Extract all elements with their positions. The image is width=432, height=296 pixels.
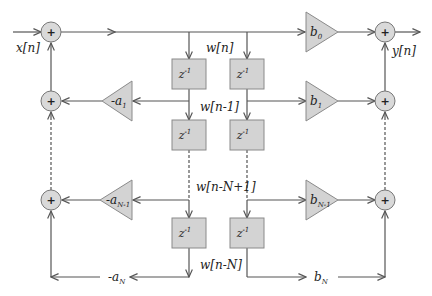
delay-left-2: z-1 xyxy=(172,120,206,150)
svg-text:+: + xyxy=(46,194,55,207)
svg-text:+: + xyxy=(380,26,389,39)
delay-right-n: z-1 xyxy=(230,218,264,248)
iir-direct-form-2-diagram: + + + + + + z-1 z-1 z-1 z-1 z-1 xyxy=(0,0,432,296)
gain-neg-aN-label: -aN xyxy=(108,270,126,286)
gain-neg-aN1: -aN-1 xyxy=(100,180,132,220)
gain-bN1: bN-1 xyxy=(306,180,338,220)
gain-b0: b0 xyxy=(306,12,338,52)
adder-right-n1: + xyxy=(375,190,395,210)
gain-bN-label: bN xyxy=(314,270,329,286)
svg-text:+: + xyxy=(380,194,389,207)
signal-w-n-N: w[n-N] xyxy=(200,258,242,272)
delay-left-n: z-1 xyxy=(172,218,206,248)
delay-left-1: z-1 xyxy=(172,59,206,89)
adder-left-n1: + xyxy=(41,190,61,210)
wires xyxy=(13,32,420,277)
signal-w-n-N1: w[n-N+1] xyxy=(196,180,256,194)
adder-right-1: + xyxy=(375,91,395,111)
signal-w-n-1: w[n-1] xyxy=(200,100,239,114)
output-label: y[n] xyxy=(391,44,416,58)
svg-text:-aN: -aN xyxy=(108,270,126,286)
delay-right-2: z-1 xyxy=(230,120,264,150)
adder-left-top: + xyxy=(41,22,61,42)
adder-left-1: + xyxy=(41,91,61,111)
input-label: x[n] xyxy=(16,41,40,55)
svg-text:+: + xyxy=(46,26,55,39)
svg-text:+: + xyxy=(46,95,55,108)
svg-text:+: + xyxy=(380,95,389,108)
adder-right-top: + xyxy=(375,22,395,42)
svg-text:bN: bN xyxy=(314,270,329,286)
delay-right-1: z-1 xyxy=(230,59,264,89)
signal-w-n: w[n] xyxy=(206,41,234,55)
gain-b1: b1 xyxy=(306,81,338,121)
gain-neg-a1: -a1 xyxy=(102,81,132,121)
